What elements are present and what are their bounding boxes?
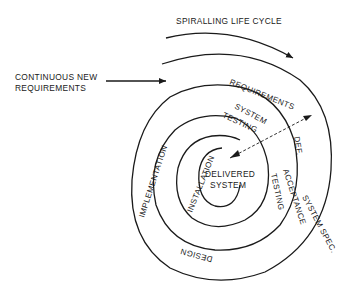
phase-acceptance-testing-2: TESTING [269, 173, 286, 212]
input-label-line1: CONTINUOUS NEW [15, 72, 97, 82]
phase-def: DEF. [292, 136, 304, 156]
spiral-lifecycle-diagram: SPIRALLING LIFE CYCLE CONTINUOUS NEW REQ… [0, 0, 348, 293]
input-label-line2: REQUIREMENTS [15, 83, 86, 93]
feedback-arrowhead-outer [303, 115, 312, 121]
diagram-title: SPIRALLING LIFE CYCLE [176, 16, 282, 26]
center-label-line1: DELIVERED [205, 169, 255, 179]
phase-implementation: IMPLEMENTATION [137, 144, 169, 219]
feedback-arrowhead-inner [230, 150, 240, 158]
phase-system-spec: SYSTEM SPEC. [300, 194, 338, 255]
center-label-line2: SYSTEM [210, 180, 246, 190]
